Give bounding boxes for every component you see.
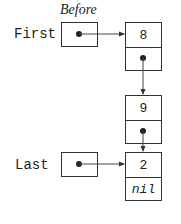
node-9-next-arrow [140, 128, 146, 151]
arrows-layer [0, 0, 181, 224]
last-pointer-arrow [76, 161, 124, 167]
first-pointer-arrow [76, 31, 124, 37]
node-8-next-arrow [140, 55, 146, 94]
linked-list-diagram: Before First 8 9 Last 2 nil [0, 0, 181, 224]
